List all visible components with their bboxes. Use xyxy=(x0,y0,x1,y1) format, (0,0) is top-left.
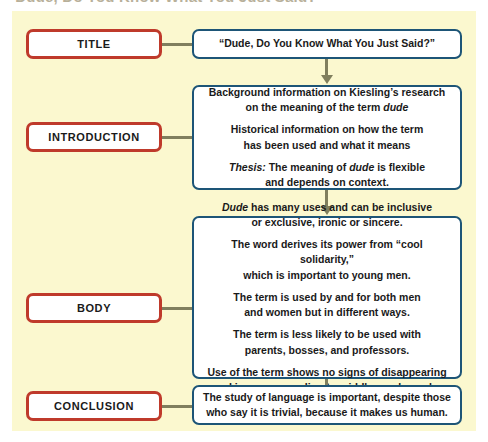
cropped-page-heading: "Dude, Do You Know What You Just Said?" xyxy=(0,0,488,9)
connector-title xyxy=(162,43,192,46)
content-box-introduction: Background information on Kiesling’s res… xyxy=(192,85,462,190)
content-line: “Dude, Do You Know What You Just Said?” xyxy=(219,36,435,51)
cropped-heading-text: "Dude, Do You Know What You Just Said?" xyxy=(8,0,324,5)
content-line-group: “Dude, Do You Know What You Just Said?” xyxy=(219,36,435,51)
content-box-body: Dude has many uses and can be inclusive … xyxy=(192,216,462,379)
content-line: which is important to young men. xyxy=(203,268,451,283)
label-box-body: BODY xyxy=(26,293,162,323)
content-line: who say it is trivial, because it makes … xyxy=(203,405,451,420)
content-line: Dude has many uses and can be inclusive xyxy=(222,200,432,215)
content-line-group: Thesis: The meaning of dude is flexible … xyxy=(229,160,425,190)
label-text-title: TITLE xyxy=(77,38,111,50)
content-line-group: Dude has many uses and can be inclusive … xyxy=(222,200,432,230)
content-line: parents, bosses, and professors. xyxy=(233,343,421,358)
connector-body xyxy=(162,307,192,310)
content-line-group: Historical information on how the term h… xyxy=(231,122,424,152)
content-line: The term is less likely to be used with xyxy=(233,327,421,342)
content-line: Use of the term shows no signs of disapp… xyxy=(207,365,446,380)
content-box-conclusion: The study of language is important, desp… xyxy=(192,385,462,425)
content-line: The term is used by and for both men xyxy=(233,290,420,305)
content-line-group: Background information on Kiesling’s res… xyxy=(209,85,446,115)
content-line: Thesis: The meaning of dude is flexible xyxy=(229,160,425,175)
content-line-group: The term is used by and for both men and… xyxy=(233,290,420,320)
label-box-introduction: INTRODUCTION xyxy=(26,122,162,152)
label-text-introduction: INTRODUCTION xyxy=(48,131,140,143)
content-box-title: “Dude, Do You Know What You Just Said?” xyxy=(192,29,462,59)
content-line: has been used and what it means xyxy=(231,138,424,153)
label-box-conclusion: CONCLUSION xyxy=(26,391,162,421)
label-text-body: BODY xyxy=(77,302,111,314)
content-line-group: The word derives its power from “cool so… xyxy=(203,237,451,283)
content-line: The word derives its power from “cool so… xyxy=(203,237,451,267)
content-line-group: The term is less likely to be used with … xyxy=(233,327,421,357)
content-line: on the meaning of the term dude xyxy=(209,100,446,115)
content-line: or exclusive, ironic or sincere. xyxy=(222,215,432,230)
label-box-title: TITLE xyxy=(26,29,162,59)
content-line: The study of language is important, desp… xyxy=(203,390,451,405)
content-line: and depends on context. xyxy=(229,175,425,190)
content-line-group: The study of language is important, desp… xyxy=(203,390,451,420)
content-line: Historical information on how the term xyxy=(231,122,424,137)
arrow-title-to-introduction xyxy=(325,59,328,76)
connector-introduction xyxy=(162,136,192,139)
content-line: Background information on Kiesling’s res… xyxy=(209,85,446,100)
connector-conclusion xyxy=(162,405,192,408)
content-line: and women but in different ways. xyxy=(233,305,420,320)
flowchart-canvas: TITLE “Dude, Do You Know What You Just S… xyxy=(12,11,476,431)
label-text-conclusion: CONCLUSION xyxy=(54,400,134,412)
